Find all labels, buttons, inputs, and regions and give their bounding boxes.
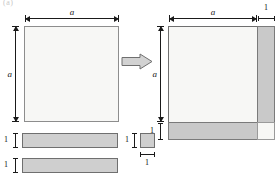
right-square-width-tick-1 [258,16,275,21]
left-square-width-label: a [68,8,77,17]
tick-line [15,158,16,173]
region-a-squared [169,27,258,123]
right-square-width-label-1: 1 [264,4,268,12]
unit-square-width-tick [140,152,155,157]
tick-line [160,123,161,140]
rect-bottom-height-tick [13,158,18,173]
dim-line [15,26,16,122]
transform-arrow [121,53,153,70]
left-square-width-dim: a [25,15,119,22]
rect-bottom-height-label: 1 [4,161,8,169]
tick-cap-right [274,16,275,21]
region-bottom-strip [168,122,258,140]
left-square-height-label: a [7,69,14,80]
tick-line [258,18,275,19]
tick-cap-top [158,123,163,124]
figure-canvas: (a) a a 1 1 [0,0,278,181]
tick-cap-top [13,158,18,159]
dim-arrow-left [169,16,174,22]
right-square-width-label-a: a [209,8,218,17]
tick-cap-bottom [158,139,163,140]
tick-line [15,133,16,148]
rect-top-height-label: 1 [4,136,8,144]
right-square-width-dim-a: a [169,15,257,22]
tick-line [134,133,135,148]
dim-arrow-top [158,26,164,31]
tick-cap-top [132,133,137,134]
dim-arrow-right [252,16,257,22]
unit-square-height-tick [132,133,137,148]
tick-cap-left [258,16,259,21]
rect-1-by-a-top [22,133,118,148]
right-square-height-dim-a: a [157,26,164,122]
tick-line [140,154,155,155]
figure-caption: (a) [3,0,13,7]
dim-line [25,18,119,19]
unit-square-height-label: 1 [125,136,129,144]
right-square-height-label-1: 1 [150,127,154,135]
dim-arrow-left [25,16,30,22]
dim-line [169,18,257,19]
region-right-strip [257,26,275,123]
tick-cap-top [13,133,18,134]
right-square-height-tick-1 [158,123,163,140]
tick-cap-left [140,152,141,157]
tick-cap-bottom [132,147,137,148]
region-corner-unit [257,122,275,140]
left-square-height-dim: a [12,26,19,122]
dim-arrow-top [13,26,19,31]
square-a [24,26,119,122]
square-a-plus-1 [168,26,275,140]
tick-cap-right [154,152,155,157]
dim-arrow-right [114,16,119,22]
unit-square-width-label: 1 [145,159,149,167]
dim-arrow-bottom [158,117,164,122]
block-arrow-right-icon [121,53,153,70]
rect-top-height-tick [13,133,18,148]
rect-1-by-a-bottom [22,158,118,173]
unit-square [140,133,155,148]
tick-cap-bottom [13,172,18,173]
dim-arrow-bottom [13,117,19,122]
tick-cap-bottom [13,147,18,148]
dim-line [160,26,161,122]
right-square-height-label-a: a [152,69,159,80]
